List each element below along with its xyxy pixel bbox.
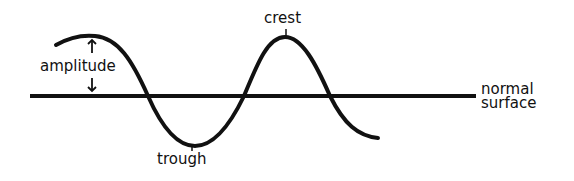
surface-label: surface: [481, 96, 536, 110]
crest-label: crest: [264, 11, 301, 26]
amplitude-label: amplitude: [40, 59, 116, 74]
normal-surface-label: normal surface: [481, 82, 536, 110]
wave-curve: [56, 36, 378, 146]
wave-diagram: amplitude crest trough normal surface: [0, 0, 574, 181]
trough-label: trough: [157, 152, 206, 167]
